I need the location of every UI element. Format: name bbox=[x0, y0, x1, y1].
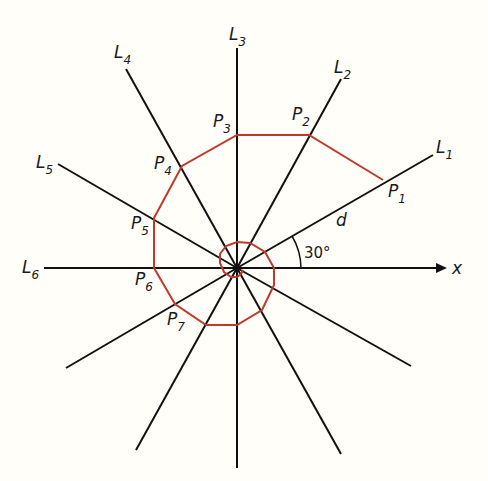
label-L6: L6 bbox=[22, 257, 39, 282]
label-angle: 30° bbox=[304, 244, 331, 262]
label-P6: P6 bbox=[135, 269, 153, 294]
label-L3: L3 bbox=[229, 24, 246, 49]
label-P7: P7 bbox=[167, 309, 185, 334]
line-L5 bbox=[58, 164, 237, 268]
spiral-diagram: L1 L2 L3 L4 L5 L6 P1 P2 P3 P4 P5 P6 P7 d… bbox=[0, 0, 488, 481]
label-distance-d: d bbox=[336, 210, 347, 230]
label-P4: P4 bbox=[154, 153, 172, 178]
line-L4-neg bbox=[237, 268, 341, 454]
angle-arc bbox=[292, 236, 301, 268]
line-L2 bbox=[237, 79, 341, 268]
label-x-axis: x bbox=[451, 258, 463, 278]
label-P5: P5 bbox=[131, 213, 149, 238]
line-L5-neg bbox=[237, 268, 411, 366]
label-P3: P3 bbox=[213, 111, 231, 136]
line-L2-neg bbox=[136, 268, 237, 450]
label-L2: L2 bbox=[334, 57, 351, 82]
label-L5: L5 bbox=[36, 152, 53, 177]
label-P1: P1 bbox=[388, 181, 406, 206]
label-L4: L4 bbox=[114, 42, 131, 67]
radial-lines bbox=[44, 48, 440, 468]
label-P2: P2 bbox=[292, 104, 310, 129]
label-L1: L1 bbox=[436, 137, 453, 162]
line-L1 bbox=[237, 155, 433, 268]
x-axis-arrow-icon bbox=[436, 263, 447, 273]
diagram-svg: L1 L2 L3 L4 L5 L6 P1 P2 P3 P4 P5 P6 P7 d… bbox=[0, 0, 488, 481]
